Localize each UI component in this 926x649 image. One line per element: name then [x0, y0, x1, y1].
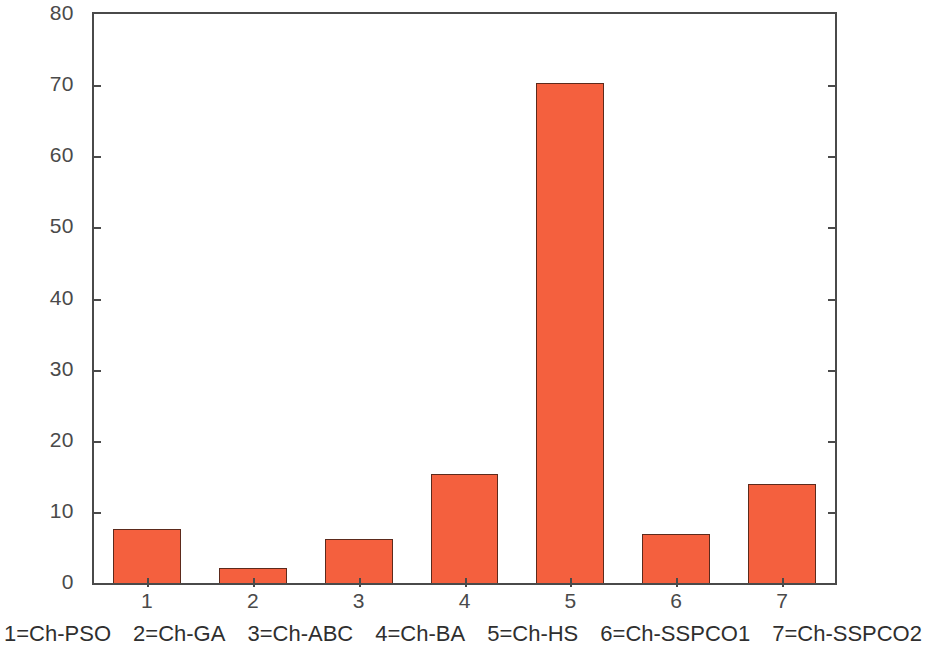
y-axis-tick-labels: 01020304050607080	[0, 0, 82, 649]
x-tick-mark-2	[253, 578, 255, 587]
bar-chart-figure: 01020304050607080 1234567 1=Ch-PSO2=Ch-G…	[0, 0, 926, 649]
y-tick-label-80: 80	[0, 1, 74, 25]
y-tick-mark-40	[92, 299, 101, 301]
y-tick-mark-30	[92, 370, 101, 372]
y-tick-mark-right-50	[828, 227, 837, 229]
x-tick-label-3: 3	[339, 589, 379, 613]
y-tick-label-20: 20	[0, 428, 74, 452]
y-tick-label-50: 50	[0, 214, 74, 238]
caption-item-4: 4=Ch-BA	[375, 621, 465, 647]
y-tick-mark-right-20	[828, 441, 837, 443]
y-tick-label-70: 70	[0, 72, 74, 96]
caption-item-7: 7=Ch-SSPCO2	[772, 621, 922, 647]
x-tick-label-4: 4	[445, 589, 485, 613]
caption-item-3: 3=Ch-ABC	[247, 621, 353, 647]
x-tick-mark-4	[465, 578, 467, 587]
caption-item-1: 1=Ch-PSO	[4, 621, 111, 647]
y-tick-label-0: 0	[0, 570, 74, 594]
y-tick-mark-right-10	[828, 512, 837, 514]
bar-4	[431, 474, 499, 583]
x-tick-mark-5	[570, 578, 572, 587]
y-tick-mark-right-70	[828, 85, 837, 87]
caption-item-2: 2=Ch-GA	[133, 621, 225, 647]
x-tick-label-1: 1	[127, 589, 167, 613]
caption-item-5: 5=Ch-HS	[487, 621, 578, 647]
y-tick-label-60: 60	[0, 143, 74, 167]
y-tick-mark-60	[92, 156, 101, 158]
y-tick-label-10: 10	[0, 499, 74, 523]
x-tick-mark-6	[676, 578, 678, 587]
x-tick-label-7: 7	[762, 589, 802, 613]
y-tick-mark-70	[92, 85, 101, 87]
x-tick-label-6: 6	[656, 589, 696, 613]
x-tick-label-2: 2	[233, 589, 273, 613]
bar-1	[113, 529, 181, 583]
bar-3	[325, 539, 393, 583]
caption-legend-row: 1=Ch-PSO2=Ch-GA3=Ch-ABC4=Ch-BA5=Ch-HS6=C…	[0, 618, 926, 649]
bars-layer	[94, 14, 835, 583]
y-tick-mark-right-40	[828, 299, 837, 301]
bar-6	[642, 534, 710, 583]
y-tick-label-30: 30	[0, 357, 74, 381]
bar-7	[748, 484, 816, 583]
plot-area	[92, 12, 837, 585]
x-tick-mark-1	[147, 578, 149, 587]
y-tick-mark-50	[92, 227, 101, 229]
x-tick-mark-7	[782, 578, 784, 587]
y-tick-mark-right-30	[828, 370, 837, 372]
y-tick-mark-20	[92, 441, 101, 443]
x-axis-tick-labels: 1234567	[92, 589, 837, 617]
bar-5	[536, 83, 604, 583]
x-tick-label-5: 5	[550, 589, 590, 613]
x-tick-mark-3	[359, 578, 361, 587]
caption-item-6: 6=Ch-SSPCO1	[600, 621, 750, 647]
y-tick-mark-10	[92, 512, 101, 514]
y-tick-mark-right-60	[828, 156, 837, 158]
y-tick-label-40: 40	[0, 286, 74, 310]
